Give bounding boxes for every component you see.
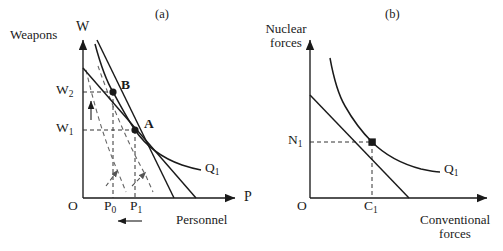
- p0-base: P: [104, 198, 112, 213]
- w2-sub: 2: [69, 89, 74, 99]
- q1b-base: Q: [444, 161, 454, 176]
- panel-a-y-axis-letter: W: [76, 19, 89, 34]
- panel-a-tag: (a): [155, 8, 169, 22]
- panel-b-curves: [310, 58, 440, 198]
- panel-b-origin-label: O: [297, 199, 307, 214]
- indifference-curve-q1-b: [330, 58, 440, 172]
- budget-line-b: [310, 95, 409, 198]
- panel-a-curves: [83, 40, 201, 198]
- w1-base: W: [56, 120, 69, 135]
- panel-b-y-word-line2: forces: [270, 35, 302, 50]
- dashed-arrow-outer: [132, 172, 146, 186]
- panel-b-xtick-c1: C1: [364, 199, 378, 214]
- panel-a-point-b-label: B: [121, 78, 130, 93]
- panel-a-xtick-p1: P1: [130, 199, 142, 214]
- w1-sub: 1: [69, 127, 74, 137]
- panel-b-x-word-line2: forces: [439, 226, 471, 241]
- panel-a-xtick-p0: P0: [104, 199, 116, 214]
- w2-base: W: [56, 82, 69, 97]
- p1-sub: 1: [138, 205, 143, 215]
- c1-base: C: [364, 198, 373, 213]
- point-a-marker: [131, 126, 138, 133]
- point-b-marker: [109, 88, 116, 95]
- panel-b-curve-label-q1: Q1: [444, 162, 459, 177]
- c1-sub: 1: [373, 205, 378, 215]
- panel-a-x-axis-letter: P: [244, 189, 252, 204]
- panel-a-y-axis-word: Weapons: [10, 28, 57, 42]
- q1b-sub: 1: [454, 168, 459, 178]
- n1-sub: 1: [298, 139, 303, 149]
- n1-base: N: [288, 132, 298, 147]
- indifference-curve-q1-a: [95, 44, 201, 170]
- panel-a-x-axis-word: Personnel: [176, 213, 227, 227]
- p0-sub: 0: [112, 205, 117, 215]
- tangency-point-marker: [368, 138, 375, 145]
- q1a-base: Q: [205, 160, 215, 175]
- panel-b-x-axis-word: Conventionalforces: [411, 213, 499, 241]
- panel-b-ytick-n1: N1: [288, 133, 303, 148]
- panel-b-y-word-line1: Nuclear: [265, 21, 306, 36]
- panel-b-y-axis-word: Nuclearforces: [263, 22, 309, 50]
- panel-a-curve-label-q1: Q1: [205, 161, 220, 176]
- panel-a-ytick-w1: W1: [56, 121, 74, 136]
- panel-a-origin-label: O: [68, 199, 78, 214]
- panel-b-points: [368, 138, 375, 145]
- panel-b-axes: [310, 40, 487, 198]
- panel-a-ytick-w2: W2: [56, 83, 74, 98]
- dashed-arrow-inner: [106, 170, 118, 186]
- panel-b-tag: (b): [385, 8, 400, 22]
- panel-a-point-a-label: A: [144, 117, 154, 132]
- panel-b-x-word-line1: Conventional: [420, 212, 490, 227]
- figure-container: (a) Weapons W P Personnel O W2 W1 P0 P1 …: [0, 0, 503, 251]
- q1a-sub: 1: [215, 167, 220, 177]
- p1-base: P: [130, 198, 138, 213]
